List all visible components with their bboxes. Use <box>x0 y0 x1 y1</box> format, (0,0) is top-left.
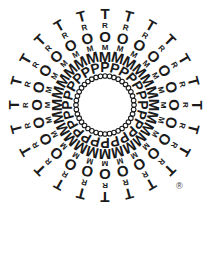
radial-wordmark-svg: TROMMPTROMMPTROMMPTROMMPTROMMPTROMMPTROM… <box>0 0 219 264</box>
ray-letter-t-0: T <box>100 5 109 22</box>
wordmark-ray: TROMMP <box>99 135 112 206</box>
rays-group: TROMMPTROMMPTROMMPTROMMPTROMMPTROMMPTROM… <box>5 5 206 206</box>
wordmark-ray: TROMMP <box>135 99 206 112</box>
ray-letter-t-0: T <box>189 100 206 109</box>
wordmark-ray: TROMMP <box>99 5 112 76</box>
wordmark-ray: TROMMP <box>5 99 76 112</box>
logo-stage: TROMMPTROMMPTROMMPTROMMPTROMMPTROMMPTROM… <box>0 0 219 264</box>
registered-trademark-icon: ® <box>176 182 183 191</box>
ray-letter-t-0: T <box>5 100 22 109</box>
inner-dot-ring <box>74 74 137 137</box>
ray-letter-t-0: T <box>100 189 109 206</box>
